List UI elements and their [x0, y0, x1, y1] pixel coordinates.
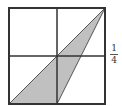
fraction-numerator: 1	[111, 43, 117, 53]
fraction-denominator: 4	[111, 55, 117, 65]
square-diagram	[0, 0, 122, 106]
fraction-label: 1 4	[108, 44, 120, 65]
